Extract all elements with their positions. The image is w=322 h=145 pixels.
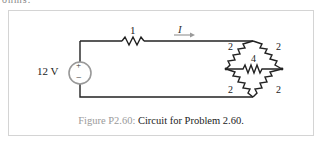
bridge-bottom-right-label: 2 [276,84,281,95]
source-minus: − [76,72,82,83]
bridge-middle-label: 4 [251,53,256,64]
caption-text: Circuit for Problem 2.60. [135,115,244,126]
series-resistor-label: 1 [130,24,136,36]
series-resistor-1 [122,37,144,45]
current-label: I [178,23,182,35]
bridge-top-right-label: 2 [276,41,281,52]
bridge-top-left-label: 2 [228,41,233,52]
bridge-bottom-left-label: 2 [228,84,233,95]
source-voltage-label: 12 V [37,65,59,77]
figure-caption: Figure P2.60: Circuit for Problem 2.60. [0,115,322,126]
figure-label: Figure P2.60: [78,115,135,126]
source-plus: + [76,60,81,70]
